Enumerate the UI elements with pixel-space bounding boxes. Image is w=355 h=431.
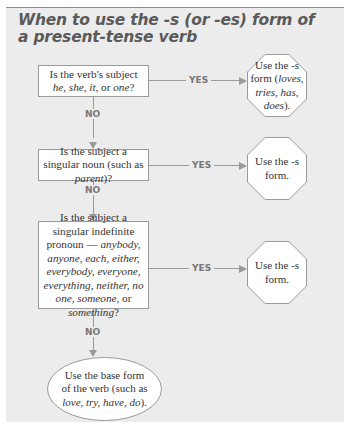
arrow-right-icon (239, 77, 247, 85)
no-label-q2: NO (82, 185, 103, 195)
decision-text-q1: Is the verb's subject he, she, it, or on… (42, 68, 145, 95)
decision-box-q3: Is the subject a singular indefinite pro… (38, 221, 149, 309)
outcome-octagon-o2: Use the -s form. (247, 137, 307, 200)
decision-box-q1: Is the verb's subject he, she, it, or on… (38, 65, 149, 97)
final-ellipse: Use the base form of the verb (such as l… (47, 357, 162, 421)
no-label-q3: NO (82, 327, 103, 337)
no-label-q1: NO (82, 109, 103, 119)
yes-label-q3: YES (189, 263, 214, 273)
yes-label-q2: YES (189, 160, 214, 170)
decision-text-q3: Is the subject a singular indefinite pro… (43, 211, 144, 319)
outcome-text-o3: Use the -s form. (255, 259, 299, 286)
decision-box-q2: Is the subject a singular noun (such as … (38, 149, 149, 181)
final-text: Use the base form of the verb (such as l… (61, 369, 148, 410)
arrow-right-icon (239, 265, 247, 273)
outcome-text-o1: Use the -s form (loves, tries, has, does… (247, 59, 307, 113)
outcome-text-o2: Use the -s form. (255, 155, 299, 182)
outcome-octagon-o3: Use the -s form. (247, 241, 307, 304)
outcome-octagon-o1: Use the -s form (loves, tries, has, does… (247, 54, 307, 117)
arrow-right-icon (239, 162, 247, 170)
page-title: When to use the -s (or -es) form of a pr… (18, 12, 328, 46)
decision-text-q2: Is the subject a singular noun (such as … (42, 145, 145, 186)
yes-label-q1: YES (186, 75, 211, 85)
arrow-down-icon (89, 350, 97, 357)
